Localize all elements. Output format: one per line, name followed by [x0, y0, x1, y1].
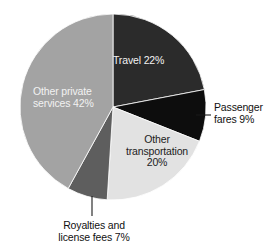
- slice-label-other-private-services: Other private services 42%: [33, 86, 94, 109]
- pie-chart: Travel 22% Other private services 42% Ot…: [0, 0, 271, 252]
- slice-label-travel: Travel 22%: [113, 55, 164, 67]
- slice-label-passenger-fares: Passenger fares 9%: [214, 102, 270, 125]
- slice-label-other-transportation: Other transportation 20%: [115, 134, 199, 169]
- slice-label-royalties-license-fees: Royalties and license fees 7%: [42, 220, 146, 243]
- pie-chart-canvas: [0, 0, 271, 252]
